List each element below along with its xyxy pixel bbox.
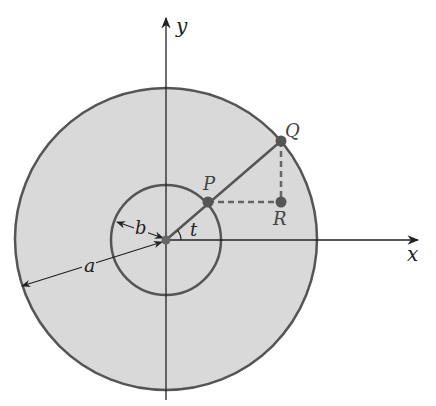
point-r-label: R [273,210,287,228]
radius-b-label: b [135,219,147,237]
x-axis-label: x [407,244,418,264]
point-r [276,197,287,208]
point-q-label: Q [285,122,300,140]
angle-t-label: t [190,221,197,239]
diagram-canvas [0,0,436,406]
radius-a-label: a [84,256,95,275]
parametric-circles-figure: y x P Q R t b a [0,0,436,406]
point-p [203,197,214,208]
origin-point [162,236,171,245]
point-p-label: P [203,175,215,193]
y-axis-label: y [176,16,187,36]
